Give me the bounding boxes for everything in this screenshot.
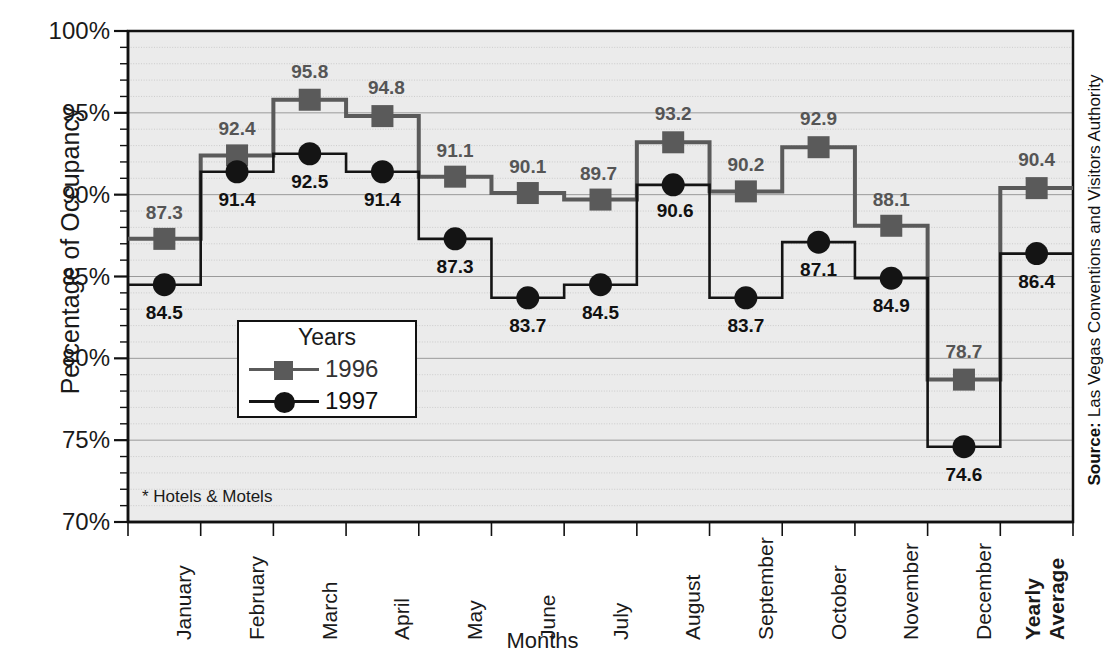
marker-circle (153, 273, 176, 296)
x-tick-label: September (754, 537, 778, 640)
x-tick-label: December (972, 543, 996, 640)
data-label: 84.9 (873, 295, 910, 317)
data-label: 87.1 (800, 259, 837, 281)
marker-circle (1025, 242, 1048, 265)
marker-square (808, 136, 830, 158)
occupancy-step-chart: Percentage of Occupancy Months Source:La… (0, 0, 1110, 663)
marker-square (444, 166, 466, 188)
legend-key-square-icon (247, 356, 321, 382)
marker-square (662, 131, 684, 153)
data-label: 89.7 (580, 163, 617, 185)
marker-square (517, 182, 539, 204)
y-tick-label: 100% (10, 17, 110, 45)
data-label: 78.7 (945, 341, 982, 363)
legend-label-1996: 1996 (321, 355, 378, 383)
footnote: * Hotels & Motels (142, 487, 272, 507)
x-tick-label: October (827, 565, 851, 640)
x-tick-label: May (463, 600, 487, 640)
data-label: 91.4 (219, 189, 256, 211)
legend: Years 1996 1997 (237, 320, 417, 418)
data-label: 93.2 (655, 103, 692, 125)
data-label: 90.4 (1018, 149, 1055, 171)
marker-circle (444, 227, 467, 250)
data-label: 83.7 (509, 315, 546, 337)
chart-plot-canvas (0, 0, 1110, 663)
marker-circle (952, 435, 975, 458)
marker-circle (226, 160, 249, 183)
marker-square (880, 215, 902, 237)
marker-circle (880, 267, 903, 290)
x-tick-label: June (536, 594, 560, 640)
data-label: 90.1 (509, 156, 546, 178)
source-label: Source: (1085, 422, 1104, 485)
data-label: 92.4 (219, 118, 256, 140)
data-label: 84.5 (146, 302, 183, 324)
marker-circle (662, 173, 685, 196)
data-label: 95.8 (291, 61, 328, 83)
marker-square (153, 228, 175, 250)
y-tick-label: 70% (10, 508, 110, 536)
y-tick-label: 95% (10, 99, 110, 127)
data-label: 87.3 (146, 202, 183, 224)
marker-circle (807, 231, 830, 254)
marker-circle (734, 286, 757, 309)
source-note: Source:Las Vegas Conventions and Visitor… (1085, 20, 1105, 540)
marker-square (371, 105, 393, 127)
data-label: 86.4 (1018, 271, 1055, 293)
legend-key-circle-icon (247, 388, 321, 414)
x-tick-label: April (390, 598, 414, 640)
data-label: 88.1 (873, 189, 910, 211)
marker-square (1026, 177, 1048, 199)
legend-title: Years (239, 324, 415, 351)
y-axis-title: Percentage of Occupancy (56, 11, 85, 491)
x-tick-label: February (245, 556, 269, 640)
data-label: 74.6 (945, 464, 982, 486)
marker-circle (298, 142, 321, 165)
legend-entry-1996: 1996 (247, 353, 415, 385)
marker-square (953, 369, 975, 391)
data-label: 94.8 (368, 77, 405, 99)
marker-circle (589, 273, 612, 296)
source-text: Las Vegas Conventions and Visitors Autho… (1085, 74, 1104, 422)
data-label: 92.9 (800, 108, 837, 130)
y-tick-label: 90% (10, 181, 110, 209)
data-label: 84.5 (582, 302, 619, 324)
y-tick-label: 85% (10, 263, 110, 291)
data-label: 91.1 (437, 140, 474, 162)
data-label: 90.6 (657, 200, 694, 222)
data-label: 91.4 (364, 189, 401, 211)
x-tick-label: January (172, 565, 196, 640)
marker-circle (516, 286, 539, 309)
marker-square (299, 89, 321, 111)
data-label: 92.5 (291, 171, 328, 193)
x-tick-label: August (681, 575, 705, 640)
x-tick-label: July (609, 603, 633, 640)
y-tick-label: 75% (10, 426, 110, 454)
legend-entry-1997: 1997 (247, 385, 415, 417)
x-tick-label: Average (1045, 558, 1069, 640)
data-label: 83.7 (727, 315, 764, 337)
y-tick-label: 80% (10, 344, 110, 372)
x-tick-label: November (899, 543, 923, 640)
marker-square (590, 189, 612, 211)
x-tick-label: March (318, 582, 342, 640)
data-label: 90.2 (727, 154, 764, 176)
marker-circle (371, 160, 394, 183)
data-label: 87.3 (437, 256, 474, 278)
marker-square (735, 180, 757, 202)
legend-label-1997: 1997 (321, 387, 378, 415)
x-tick-label: Yearly (1021, 578, 1045, 640)
